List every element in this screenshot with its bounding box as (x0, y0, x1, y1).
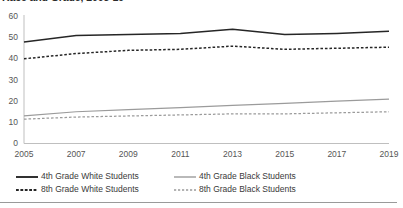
legend-item-4th-grade-white[interactable]: 4th Grade White Students (16, 170, 166, 183)
legend-label: 4th Grade White Students (41, 172, 139, 181)
solid-black-line-swatch (16, 173, 38, 181)
x-axis-tick-label: 2011 (160, 149, 200, 159)
y-axis-tick-label: 10 (2, 117, 18, 127)
series-line-2 (24, 46, 389, 59)
legend-item-8th-grade-white[interactable]: 8th Grade White Students (16, 183, 166, 196)
dashed-gray-line-swatch (174, 186, 196, 194)
x-axis-tick-label: 2019 (369, 149, 403, 159)
legend-label: 8th Grade Black Students (199, 185, 296, 194)
x-axis-tick-label: 2005 (4, 149, 44, 159)
legend-item-8th-grade-black[interactable]: 8th Grade Black Students (174, 183, 324, 196)
y-axis-tick-label: 20 (2, 96, 18, 106)
x-axis-tick-label: 2017 (317, 149, 357, 159)
legend-label: 4th Grade Black Students (199, 172, 296, 181)
bottom-divider (0, 202, 397, 203)
y-axis-tick-label: 60 (2, 11, 18, 21)
solid-gray-line-swatch (174, 173, 196, 181)
series-line-0 (24, 29, 389, 42)
series-line-1 (24, 99, 389, 116)
legend-label: 8th Grade White Students (41, 185, 139, 194)
legend-item-4th-grade-black[interactable]: 4th Grade Black Students (174, 170, 324, 183)
y-axis-tick-label: 0 (2, 138, 18, 148)
dashed-black-line-swatch (16, 186, 38, 194)
chart-legend: 4th Grade White Students 4th Grade Black… (16, 170, 356, 196)
x-axis-tick-label: 2013 (213, 149, 253, 159)
y-axis-tick-label: 30 (2, 75, 18, 85)
y-axis-tick-label: 50 (2, 32, 18, 42)
x-axis-tick-label: 2015 (265, 149, 305, 159)
x-axis-tick-label: 2009 (108, 149, 148, 159)
series-line-3 (24, 112, 389, 119)
y-axis-tick-label: 40 (2, 53, 18, 63)
x-axis-tick-label: 2007 (56, 149, 96, 159)
